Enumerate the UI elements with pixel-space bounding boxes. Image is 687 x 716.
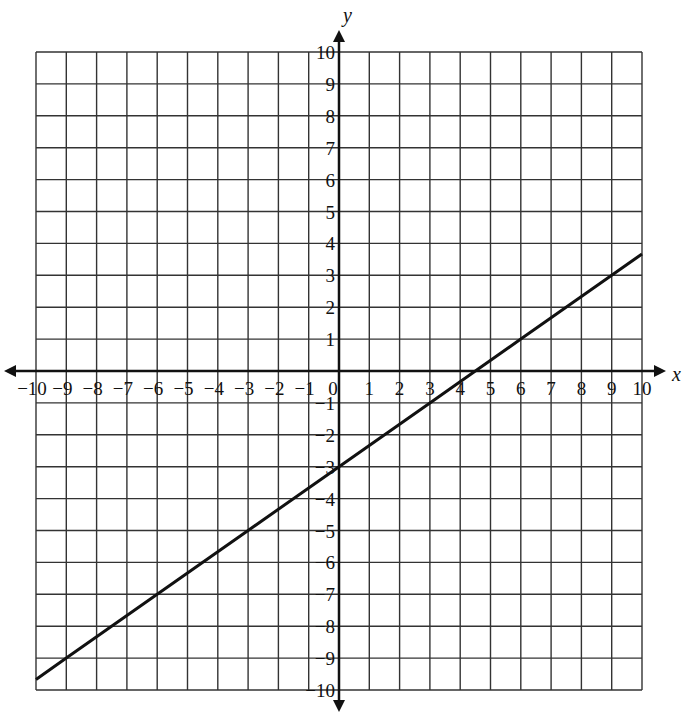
coordinate-plane: −10−9−8−7−6−5−4−3−2−1012345678910−10−9−8… xyxy=(0,0,687,716)
x-tick-label: 10 xyxy=(633,378,652,399)
x-tick-label: −2 xyxy=(264,378,284,399)
y-tick-label: −2 xyxy=(315,425,335,446)
y-tick-label: −9 xyxy=(315,648,335,669)
x-axis-right-arrow-icon xyxy=(654,365,666,377)
x-axis-label: x xyxy=(671,363,681,385)
x-tick-label: 7 xyxy=(546,378,556,399)
x-tick-label: −9 xyxy=(52,378,72,399)
y-tick-label: −7 xyxy=(315,584,335,605)
x-tick-label: 5 xyxy=(486,378,496,399)
x-tick-label: 6 xyxy=(516,378,526,399)
y-tick-label: 6 xyxy=(326,170,336,191)
y-tick-label: 3 xyxy=(326,265,336,286)
y-tick-label: −8 xyxy=(315,616,335,637)
x-tick-label: −6 xyxy=(143,378,163,399)
x-tick-label: −1 xyxy=(295,378,315,399)
x-tick-label: 9 xyxy=(607,378,617,399)
y-tick-label: 8 xyxy=(326,106,336,127)
x-tick-label: 8 xyxy=(577,378,587,399)
x-tick-label: −4 xyxy=(204,378,225,399)
x-tick-label: 3 xyxy=(425,378,435,399)
y-tick-label: −10 xyxy=(305,680,335,701)
y-tick-label: 10 xyxy=(316,42,335,63)
y-tick-label: −3 xyxy=(315,457,335,478)
y-axis-label: y xyxy=(341,4,352,27)
x-tick-label: −5 xyxy=(173,378,193,399)
x-tick-label: −7 xyxy=(113,378,133,399)
y-tick-label: 7 xyxy=(326,138,336,159)
y-tick-label: 5 xyxy=(326,202,336,223)
y-tick-label: 2 xyxy=(326,297,336,318)
x-tick-label: 1 xyxy=(365,378,375,399)
axes xyxy=(4,30,666,712)
x-tick-label: −10 xyxy=(17,378,47,399)
x-tick-label: 2 xyxy=(395,378,405,399)
y-tick-label: 4 xyxy=(326,233,336,254)
x-tick-label: −3 xyxy=(234,378,254,399)
y-axis-down-arrow-icon xyxy=(333,700,345,712)
y-tick-label: 9 xyxy=(326,74,336,95)
y-axis-up-arrow-icon xyxy=(333,30,345,42)
y-tick-label: −1 xyxy=(315,393,335,414)
y-tick-label: −4 xyxy=(315,489,336,510)
y-tick-label: −6 xyxy=(315,552,335,573)
x-tick-label: −8 xyxy=(82,378,102,399)
x-axis-left-arrow-icon xyxy=(4,365,16,377)
y-tick-label: 1 xyxy=(326,329,336,350)
y-tick-label: −5 xyxy=(315,521,335,542)
